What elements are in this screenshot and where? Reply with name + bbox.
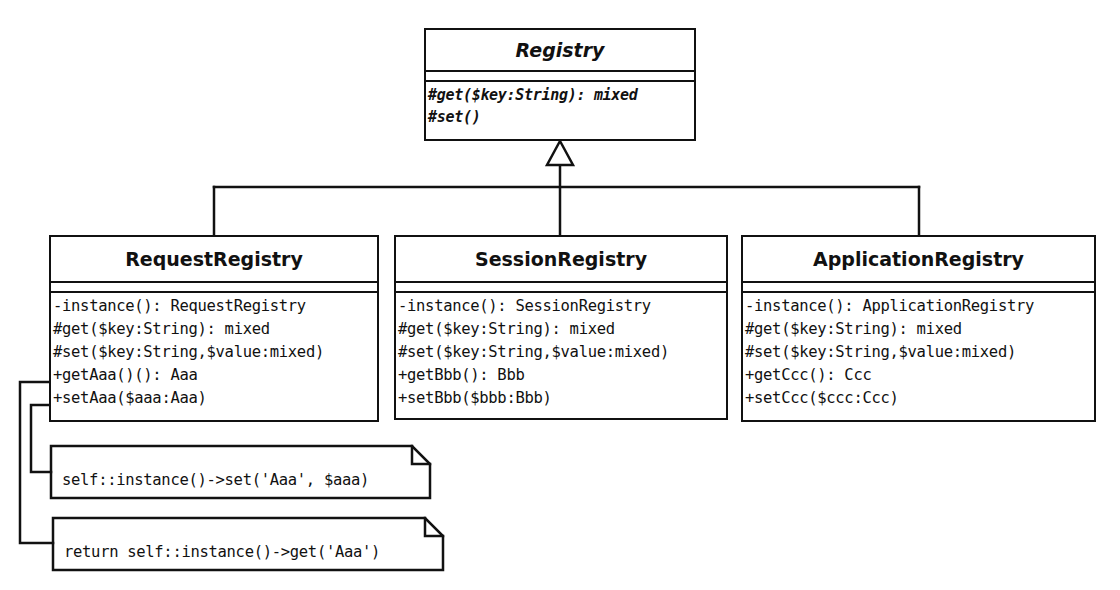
operation-get: #get($key:String): mixed — [398, 318, 726, 341]
class-name-session-registry: SessionRegistry — [396, 237, 726, 283]
operation-instance: -instance(): RequestRegistry — [53, 295, 377, 318]
operation-set: #set($key:String,$value:mixed) — [745, 341, 1094, 364]
class-application-registry[interactable]: ApplicationRegistry -instance(): Applica… — [741, 235, 1096, 422]
class-request-registry[interactable]: RequestRegistry -instance(): RequestRegi… — [49, 235, 379, 422]
operations-compartment-registry: #get($key:String): mixed #set() — [426, 82, 694, 128]
class-name-request-registry: RequestRegistry — [51, 237, 377, 283]
operation-set: #set() — [428, 106, 694, 128]
operation-get-aaa: +getAaa()(): Aaa — [53, 364, 377, 387]
operation-get: #get($key:String): mixed — [745, 318, 1094, 341]
operation-set-bbb: +setBbb($bbb:Bbb) — [398, 387, 726, 410]
operation-get: #get($key:String): mixed — [53, 318, 377, 341]
attributes-compartment-application — [743, 283, 1094, 293]
note-set-text: self::instance()->set('Aaa', $aaa) — [62, 471, 369, 489]
operation-instance: -instance(): ApplicationRegistry — [745, 295, 1094, 318]
attributes-compartment-registry — [426, 72, 694, 82]
generalization-arrow-icon — [547, 141, 573, 165]
note-connector-set — [31, 405, 51, 472]
class-name-application-registry: ApplicationRegistry — [743, 237, 1094, 283]
operation-get: #get($key:String): mixed — [428, 84, 694, 106]
operation-set-aaa: +setAaa($aaa:Aaa) — [53, 387, 377, 410]
operation-set-ccc: +setCcc($ccc:Ccc) — [745, 387, 1094, 410]
attributes-compartment-request — [51, 283, 377, 293]
class-session-registry[interactable]: SessionRegistry -instance(): SessionRegi… — [394, 235, 728, 420]
operation-set: #set($key:String,$value:mixed) — [398, 341, 726, 364]
operations-compartment-session: -instance(): SessionRegistry #get($key:S… — [396, 293, 726, 410]
operations-compartment-request: -instance(): RequestRegistry #get($key:S… — [51, 293, 377, 410]
note-get-text: return self::instance()->get('Aaa') — [64, 543, 380, 561]
operation-get-bbb: +getBbb(): Bbb — [398, 364, 726, 387]
operation-instance: -instance(): SessionRegistry — [398, 295, 726, 318]
operation-set: #set($key:String,$value:mixed) — [53, 341, 377, 364]
class-registry[interactable]: Registry #get($key:String): mixed #set() — [424, 28, 696, 141]
operation-get-ccc: +getCcc(): Ccc — [745, 364, 1094, 387]
attributes-compartment-session — [396, 283, 726, 293]
operations-compartment-application: -instance(): ApplicationRegistry #get($k… — [743, 293, 1094, 410]
class-name-registry: Registry — [426, 30, 694, 72]
